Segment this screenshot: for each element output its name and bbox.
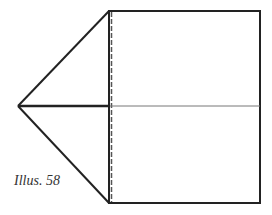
paper-rectangle [109, 11, 260, 203]
figure-caption: Illus. 58 [14, 173, 60, 189]
upper-flap-edge [18, 11, 109, 106]
